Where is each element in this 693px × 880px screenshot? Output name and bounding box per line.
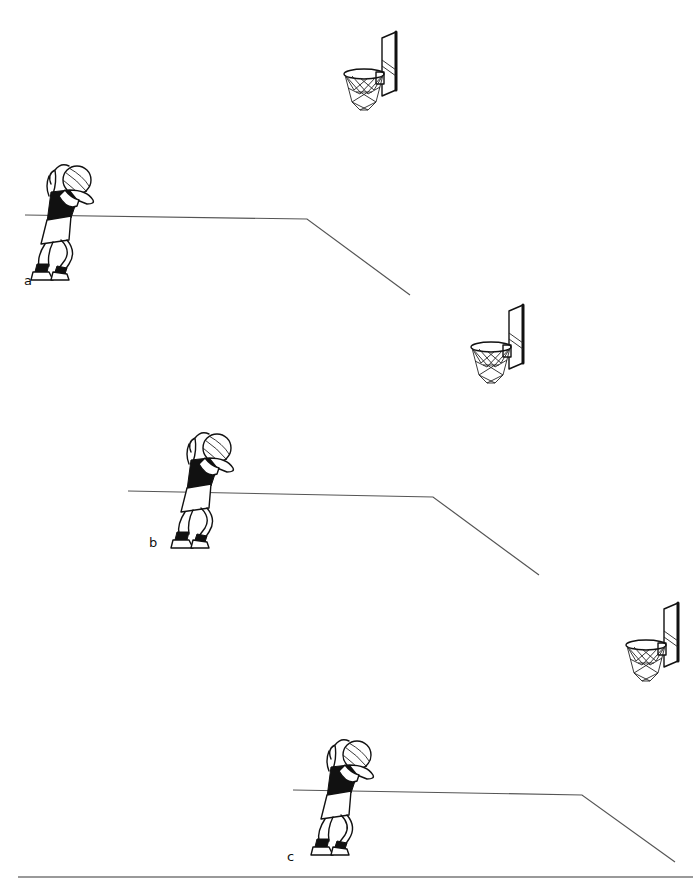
basket-icon-b [471, 305, 523, 383]
basket-icon-a [344, 32, 396, 110]
player-figure-b [171, 433, 233, 548]
basket-icon-c [626, 603, 678, 681]
court-line-a [25, 215, 410, 295]
panel-label-c: c [287, 850, 294, 863]
panel-b [128, 305, 539, 575]
player-figure-c [311, 740, 373, 855]
illustration-canvas [0, 0, 693, 880]
panel-c [293, 603, 678, 862]
panel-label-a: a [24, 274, 32, 287]
panel-label-b: b [149, 536, 157, 549]
player-figure-a [31, 165, 93, 280]
panel-a [25, 32, 410, 295]
